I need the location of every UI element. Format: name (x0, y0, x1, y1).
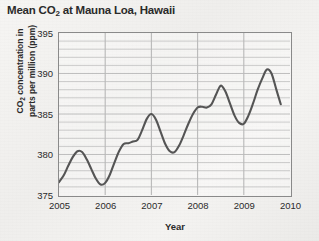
y-axis-tick-380: 380 (13, 149, 53, 160)
y-axis-tick-395: 395 (13, 28, 53, 39)
chart-plot-svg (59, 33, 290, 195)
y-axis-label-subscript: 2 (19, 97, 26, 101)
x-axis-tick-2010: 2010 (268, 200, 314, 211)
chart-title-subscript: 2 (55, 9, 59, 18)
y-axis-tick-385: 385 (13, 109, 53, 120)
y-axis-tick-390: 390 (13, 68, 53, 79)
x-axis-label: Year (58, 221, 292, 232)
x-axis-tick-2007: 2007 (129, 200, 175, 211)
horizontal-gridlines (59, 41, 290, 187)
x-axis-tick-2006: 2006 (83, 200, 129, 211)
plot-area (58, 32, 292, 197)
chart-figure: Mean CO2 at Mauna Loa, Hawaii CO2 concen… (0, 0, 319, 241)
y-axis-tick-375: 375 (13, 190, 53, 201)
chart-title-post: at Mauna Loa, Hawaii (60, 4, 175, 16)
x-axis-tick-2008: 2008 (175, 200, 221, 211)
y-axis-label-post: concentration in (15, 29, 25, 97)
x-axis-tick-2009: 2009 (221, 200, 267, 211)
x-axis-tick-2005: 2005 (37, 200, 83, 211)
co2-concentration-line (59, 69, 281, 184)
